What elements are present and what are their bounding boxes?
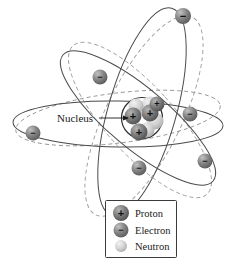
legend: + Proton − Electron Neutron xyxy=(106,201,177,258)
nucleus: + + + + xyxy=(122,97,165,141)
svg-text:+: + xyxy=(136,126,142,138)
electron-top: − xyxy=(175,8,191,24)
electron-right-lower: − xyxy=(198,154,213,169)
svg-text:+: + xyxy=(130,110,136,122)
legend-label-neutron: Neutron xyxy=(135,241,170,252)
electron-upper-left: − xyxy=(93,70,108,85)
svg-text:−: − xyxy=(202,156,207,166)
atom-diagram-canvas: + + + + − − xyxy=(0,0,239,263)
proton-particle: + xyxy=(150,97,165,112)
svg-text:−: − xyxy=(118,225,123,235)
svg-text:−: − xyxy=(187,109,192,119)
horizontal-solid-orbit xyxy=(13,99,224,149)
proton-particle: + xyxy=(131,124,148,141)
electron-group: − − − − − − xyxy=(26,8,213,176)
electron-left: − xyxy=(26,126,41,141)
legend-item-neutron: Neutron xyxy=(115,240,170,252)
legend-label-proton: Proton xyxy=(135,208,164,219)
svg-text:−: − xyxy=(180,10,186,22)
atom-diagram-figure: + + + + − − xyxy=(0,0,239,263)
svg-text:+: + xyxy=(154,99,159,109)
nucleus-label: Nucleus xyxy=(57,112,93,124)
neutron-swatch-icon xyxy=(115,240,127,252)
legend-item-proton: + Proton xyxy=(113,205,164,221)
electron-bottom-center: − xyxy=(132,161,147,176)
legend-item-electron: − Electron xyxy=(114,223,172,238)
svg-text:+: + xyxy=(118,207,124,219)
nucleus-callout: Nucleus xyxy=(57,112,128,124)
legend-label-electron: Electron xyxy=(135,225,171,236)
proton-particle: + xyxy=(125,108,142,125)
electron-right-upper: − xyxy=(183,107,198,122)
svg-text:−: − xyxy=(97,72,102,82)
svg-text:−: − xyxy=(30,128,35,138)
svg-text:−: − xyxy=(136,163,141,173)
